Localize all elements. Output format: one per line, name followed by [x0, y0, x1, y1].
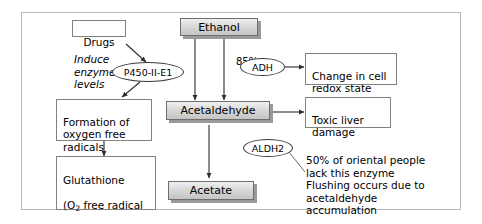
node-acetate-label: Acetate: [190, 185, 232, 196]
node-induce-label: Induce enzyme levels: [74, 53, 116, 90]
node-aldh2-enzyme: ALDH2: [243, 139, 293, 157]
node-adh-label: ADH: [252, 62, 273, 73]
node-acetaldehyde-label: Acetaldehyde: [180, 105, 255, 116]
diagram-canvas: Drugs Induce enzyme levels P450-II-E1 Fo…: [0, 0, 482, 224]
node-glutathione: Glutathione (O2 free radical scavenger) …: [56, 156, 156, 210]
node-glutathione-line2-post: free radical: [80, 199, 143, 211]
node-ethanol: Ethanol: [180, 18, 258, 36]
node-acetaldehyde: Acetaldehyde: [166, 101, 270, 120]
node-toxic-liver-damage: Toxic liver damage: [305, 97, 391, 128]
node-drugs: Drugs: [72, 20, 126, 37]
node-acetate: Acetate: [168, 181, 254, 200]
node-aldh2-note-text: 50% of oriental people lack this enzyme …: [306, 154, 425, 216]
node-p450-enzyme: P450-II-E1: [112, 62, 184, 82]
node-aldh2-note: 50% of oriental people lack this enzyme …: [306, 142, 452, 216]
node-formation-free-radicals: Formation of oxygen free radicals: [56, 99, 152, 141]
node-p450-label: P450-II-E1: [124, 67, 172, 78]
node-redox-state: Change in cell redox state: [305, 53, 397, 85]
node-ethanol-label: Ethanol: [198, 22, 240, 33]
node-adh-enzyme: ADH: [240, 58, 285, 76]
node-aldh2-label: ALDH2: [252, 143, 284, 154]
node-glutathione-line1: Glutathione: [63, 174, 125, 186]
node-glutathione-line2-pre: (O: [63, 199, 75, 211]
